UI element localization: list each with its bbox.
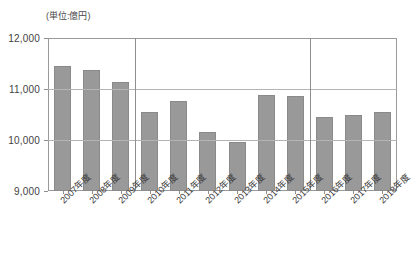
y-tick-label: 10,000 [8, 135, 40, 146]
gridline [48, 89, 397, 90]
y-tick-label: 12,000 [8, 33, 40, 44]
section-divider [135, 38, 136, 191]
bars-layer [48, 38, 397, 191]
unit-caption: (単位:億円) [46, 9, 91, 22]
plot-area [48, 38, 397, 191]
y-axis: 12,00011,00010,0009,000 [0, 0, 46, 253]
bar-chart: (単位:億円) 12,00011,00010,0009,000 2007年度20… [0, 0, 418, 253]
bar [54, 66, 71, 191]
y-tick-label: 9,000 [14, 186, 40, 197]
section-divider [310, 38, 311, 191]
gridline [48, 140, 397, 141]
x-axis: 2007年度2008年度2009年度2010年度2011年度2012年度2013… [48, 191, 397, 253]
y-tick-label: 11,000 [9, 84, 40, 95]
